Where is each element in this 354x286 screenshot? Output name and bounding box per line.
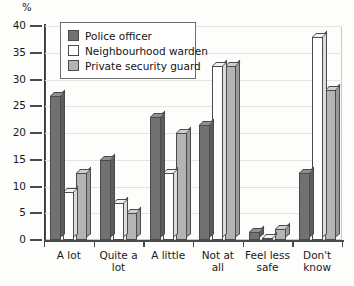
bar bbox=[262, 238, 273, 240]
bar-side-face bbox=[323, 30, 327, 237]
x-axis-tick bbox=[342, 240, 343, 247]
y-axis-tick-label: 20 bbox=[2, 126, 26, 138]
x-axis-tick bbox=[94, 240, 95, 247]
x-axis-tick-label: A lot bbox=[44, 249, 94, 261]
x-axis-tick-label: Not at all bbox=[193, 249, 243, 273]
x-axis-tick-label: Don't know bbox=[292, 249, 342, 273]
y-axis-tick bbox=[30, 159, 42, 161]
x-axis-tick-label: Feel less safe bbox=[243, 249, 293, 273]
bar-side-face bbox=[310, 167, 314, 237]
legend-label-police: Police officer bbox=[85, 30, 152, 42]
bar-front-face bbox=[100, 160, 111, 240]
x-axis-tick bbox=[243, 240, 244, 247]
bar-side-face bbox=[174, 167, 178, 237]
x-axis-tick-label: Quite a lot bbox=[94, 249, 144, 273]
y-axis-unit-label: % bbox=[22, 2, 32, 13]
legend-swatch-guard-icon bbox=[68, 60, 79, 71]
bar bbox=[150, 117, 161, 240]
y-axis-tick bbox=[30, 212, 42, 214]
y-axis-tick-label: 5 bbox=[2, 206, 26, 218]
legend-item-guard: Private security guard bbox=[68, 58, 189, 73]
x-axis-tick bbox=[292, 240, 293, 247]
y-axis-tick bbox=[30, 105, 42, 107]
bar-front-face bbox=[150, 117, 161, 240]
y-axis-tick bbox=[30, 132, 42, 134]
y-axis-tick-label: 0 bbox=[2, 233, 26, 245]
gridline bbox=[45, 106, 342, 107]
bar bbox=[249, 232, 260, 240]
y-axis-tick-label: 35 bbox=[2, 46, 26, 58]
x-axis-tick bbox=[143, 240, 144, 247]
chart-legend: Police officer Neighbourhood warden Priv… bbox=[60, 22, 196, 79]
legend-swatch-warden-icon bbox=[68, 45, 79, 56]
y-axis-tick bbox=[30, 25, 42, 27]
bar bbox=[199, 125, 210, 240]
bar-front-face bbox=[299, 173, 310, 240]
bar-side-face bbox=[161, 111, 165, 237]
x-axis-tick bbox=[193, 240, 194, 247]
y-axis-tick-label: 30 bbox=[2, 73, 26, 85]
bar-side-face bbox=[74, 185, 78, 236]
bar-side-face bbox=[336, 84, 340, 237]
legend-item-warden: Neighbourhood warden bbox=[68, 43, 189, 58]
bar-side-face bbox=[111, 153, 115, 237]
legend-swatch-police-icon bbox=[68, 30, 79, 41]
gridline bbox=[45, 133, 342, 134]
y-axis-tick-label: 15 bbox=[2, 153, 26, 165]
x-axis-tick bbox=[44, 240, 45, 247]
y-axis-tick-label: 25 bbox=[2, 99, 26, 111]
bar-front-face bbox=[262, 238, 273, 240]
gridline bbox=[45, 80, 342, 81]
bar-side-face bbox=[187, 127, 191, 237]
bar bbox=[100, 160, 111, 240]
gridline bbox=[45, 160, 342, 161]
bar bbox=[299, 173, 310, 240]
y-axis-tick-label: 40 bbox=[2, 19, 26, 31]
bar-side-face bbox=[223, 60, 227, 237]
y-axis-tick bbox=[30, 186, 42, 188]
bar bbox=[50, 96, 61, 240]
legend-label-warden: Neighbourhood warden bbox=[85, 45, 208, 57]
bar-front-face bbox=[50, 96, 61, 240]
y-axis-tick bbox=[30, 239, 42, 241]
x-axis-tick-label: A little bbox=[143, 249, 193, 261]
bar-front-face bbox=[249, 232, 260, 240]
bar-front-face bbox=[199, 125, 210, 240]
y-axis-tick bbox=[30, 52, 42, 54]
bar-side-face bbox=[236, 60, 240, 237]
legend-label-guard: Private security guard bbox=[85, 60, 201, 72]
bar-side-face bbox=[61, 89, 65, 237]
bar-chart: % 0510152025303540 A lotQuite a lotA lit… bbox=[0, 0, 354, 286]
bar-side-face bbox=[87, 167, 91, 237]
bar-side-face bbox=[210, 119, 214, 237]
y-axis-tick bbox=[30, 79, 42, 81]
y-axis-tick-label: 10 bbox=[2, 180, 26, 192]
legend-item-police: Police officer bbox=[68, 28, 189, 43]
